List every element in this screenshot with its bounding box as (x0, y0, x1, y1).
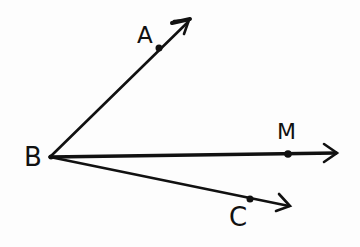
label-m: M (277, 121, 296, 143)
ray-ba-line (50, 22, 188, 157)
label-c: C (229, 204, 247, 230)
point-c-dot (247, 196, 254, 203)
rays-drawing (0, 0, 360, 247)
label-b: B (24, 144, 42, 170)
diagram-canvas: A B M C (0, 0, 360, 247)
point-a-dot (156, 45, 163, 52)
label-a: A (137, 24, 153, 47)
point-m-dot (284, 150, 292, 158)
ray-bm-line (50, 153, 336, 157)
vertex-b-dot (49, 155, 54, 160)
